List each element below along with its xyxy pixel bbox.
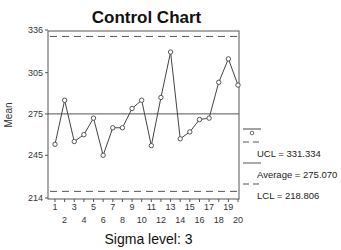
- data-point-marker: [217, 80, 221, 84]
- x-tick-label: 10: [137, 215, 147, 225]
- x-tick-label: 13: [166, 202, 176, 212]
- x-tick-label: 2: [62, 215, 67, 225]
- data-point-marker: [197, 117, 201, 121]
- x-tick-label: 3: [72, 202, 77, 212]
- y-tick-label: 214: [28, 193, 43, 203]
- sigma-level-label: Sigma level: 3: [0, 231, 341, 247]
- x-tick-label: 14: [175, 215, 185, 225]
- data-point-marker: [236, 83, 240, 87]
- x-tick-label: 19: [223, 202, 233, 212]
- x-tick-label: 6: [101, 215, 106, 225]
- data-point-marker: [111, 126, 115, 130]
- data-point-marker: [207, 116, 211, 120]
- y-tick-label: 305: [28, 68, 43, 78]
- x-tick-label: 15: [185, 202, 195, 212]
- x-tick-label: 9: [130, 202, 135, 212]
- x-tick-label: 4: [81, 215, 86, 225]
- legend-average-label: Average = 275.070: [257, 169, 337, 180]
- data-point-marker: [168, 50, 172, 54]
- x-tick-label: 16: [194, 215, 204, 225]
- data-point-marker: [226, 57, 230, 61]
- y-axis-label: Mean: [3, 102, 14, 127]
- data-point-marker: [120, 126, 124, 130]
- x-tick-label: 11: [147, 202, 156, 212]
- x-tick-label: 5: [91, 202, 96, 212]
- legend-ucl-label: UCL = 331.334: [257, 148, 321, 159]
- data-point-marker: [101, 153, 105, 157]
- x-tick-label: 12: [156, 215, 166, 225]
- data-point-marker: [72, 139, 76, 143]
- y-tick-label: 245: [28, 150, 43, 160]
- control-chart-plot: 214245275305336Mean135791113151719246810…: [0, 0, 341, 250]
- x-tick-label: 18: [214, 215, 224, 225]
- data-point-marker: [178, 137, 182, 141]
- x-tick-label: 17: [204, 202, 214, 212]
- data-point-marker: [62, 98, 66, 102]
- data-point-marker: [53, 142, 57, 146]
- data-point-marker: [139, 98, 143, 102]
- data-point-marker: [91, 116, 95, 120]
- x-tick-label: 8: [120, 215, 125, 225]
- legend-lcl-label: LCL = 218.806: [257, 190, 319, 201]
- data-point-marker: [159, 95, 163, 99]
- y-tick-label: 275: [28, 109, 43, 119]
- y-tick-label: 336: [28, 25, 43, 35]
- data-point-marker: [82, 132, 86, 136]
- mean-series-line: [55, 52, 238, 155]
- x-tick-label: 20: [233, 215, 243, 225]
- x-tick-label: 7: [110, 202, 115, 212]
- sigma-level-text: Sigma level: 3: [105, 231, 193, 247]
- data-point-marker: [149, 143, 153, 147]
- x-tick-label: 1: [52, 202, 57, 212]
- legend-series-marker: [250, 131, 254, 135]
- data-point-marker: [130, 106, 134, 110]
- data-point-marker: [188, 130, 192, 134]
